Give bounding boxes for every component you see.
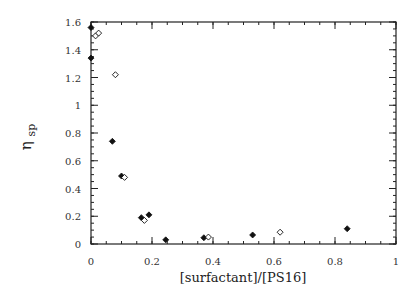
y-tick-label: 1 <box>75 100 81 111</box>
y-tick-label: 0 <box>75 239 81 250</box>
x-tick-labels: 00.20.40.60.81 <box>88 256 399 267</box>
y-tick-label: 0.2 <box>65 211 81 222</box>
major-ticks <box>91 22 396 244</box>
filled-diamond-point <box>344 226 350 232</box>
x-tick-label: 0.4 <box>205 256 221 267</box>
y-axis-title-main: η <box>17 141 35 150</box>
open-diamond-point <box>205 234 211 240</box>
x-tick-label: 0.2 <box>144 256 160 267</box>
open-diamond-point <box>112 72 118 78</box>
filled-diamond-point <box>250 232 256 238</box>
y-tick-label: 1.4 <box>65 45 81 56</box>
filled-diamond-point <box>146 212 152 218</box>
filled-diamond-point <box>88 25 94 31</box>
y-tick-label: 0.4 <box>65 184 81 195</box>
filled-diamond-point <box>163 237 169 243</box>
filled-diamond-point <box>88 55 94 61</box>
y-axis-title-sub: sp <box>25 124 38 137</box>
svg-text:η sp: η sp <box>17 124 38 150</box>
y-axis-title: η sp <box>17 124 38 150</box>
minor-ticks <box>91 22 396 244</box>
y-tick-label: 0.8 <box>65 128 81 139</box>
y-tick-label: 0.6 <box>65 156 81 167</box>
y-tick-label: 1.2 <box>65 73 81 84</box>
scatter-chart: 00.20.40.60.81 00.20.40.60.811.21.41.6 [… <box>0 0 412 299</box>
x-axis-title: [surfactant]/[PS16] <box>180 270 307 285</box>
open-diamond-point <box>277 229 283 235</box>
x-tick-label: 0 <box>88 256 94 267</box>
x-tick-label: 0.8 <box>327 256 343 267</box>
y-tick-labels: 00.20.40.60.811.21.41.6 <box>65 17 81 250</box>
plot-frame <box>91 22 396 244</box>
data-points <box>88 25 350 243</box>
plot-border <box>91 22 396 244</box>
filled-diamond-point <box>109 138 115 144</box>
y-tick-label: 1.6 <box>65 17 81 28</box>
x-tick-label: 0.6 <box>266 256 282 267</box>
x-tick-label: 1 <box>393 256 399 267</box>
